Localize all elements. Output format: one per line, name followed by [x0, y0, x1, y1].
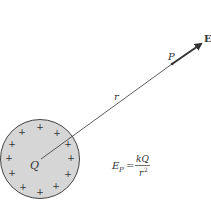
field-formula: E P = kQ r 2: [111, 154, 150, 178]
field-vector-arrow: [172, 44, 201, 64]
plus-sign: +: [18, 127, 26, 137]
plus-sign: +: [67, 153, 75, 163]
formula-equals: =: [126, 160, 134, 171]
plus-sign: +: [8, 139, 16, 149]
distance-line: [41, 64, 172, 159]
point-label: P: [167, 51, 175, 62]
electric-field-diagram: + + + + + + + + + + + + Q r P E E P = kQ…: [0, 0, 211, 202]
formula-exponent: 2: [144, 166, 148, 173]
charge-label: Q: [30, 159, 39, 172]
plus-sign: +: [19, 182, 27, 192]
plus-sign: +: [8, 168, 16, 178]
plus-sign: +: [36, 122, 44, 132]
plus-sign: +: [52, 181, 60, 191]
plus-sign: +: [5, 153, 13, 163]
distance-label: r: [114, 91, 120, 102]
plus-sign: +: [53, 128, 61, 138]
formula-lhs-subscript: P: [118, 166, 124, 174]
field-label: E: [204, 33, 211, 44]
plus-sign: +: [64, 139, 72, 149]
plus-sign: +: [64, 169, 72, 179]
plus-sign: +: [36, 187, 44, 197]
formula-numerator: kQ: [136, 154, 149, 164]
